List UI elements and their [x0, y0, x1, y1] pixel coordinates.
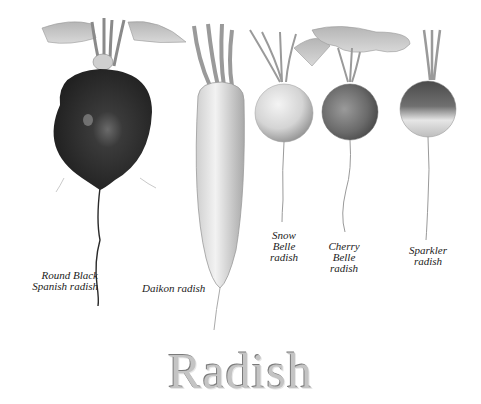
sparkler-radish — [400, 30, 456, 240]
label-daikon: Daikon radish — [142, 283, 205, 294]
radish-illustration: Round Black Spanish radish Daikon radish… — [0, 0, 481, 404]
label-round-black-spanish: Round Black Spanish radish — [28, 270, 98, 292]
label-line: radish — [403, 256, 453, 267]
page-title: Radish — [0, 345, 481, 397]
snow-belle-radish — [250, 30, 330, 222]
label-sparkler: Sparkler radish — [403, 245, 453, 267]
label-cherry-belle: Cherry Belle radish — [320, 241, 368, 274]
cherry-belle-radish — [312, 26, 410, 232]
label-line: radish — [262, 252, 306, 263]
label-line: radish — [320, 263, 368, 274]
round-black-spanish-radish — [42, 18, 186, 306]
label-line: Daikon radish — [142, 283, 205, 294]
label-snow-belle: Snow Belle radish — [262, 230, 306, 263]
label-line: Spanish radish — [28, 281, 98, 292]
